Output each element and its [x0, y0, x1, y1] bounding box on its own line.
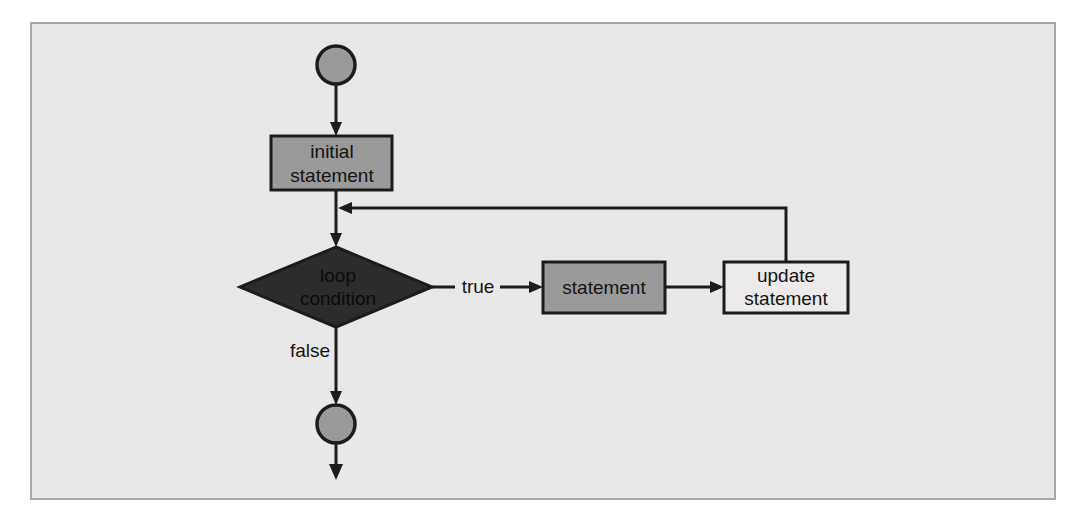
edge-label-true: true	[462, 276, 495, 297]
arrowhead-icon	[529, 281, 543, 293]
edge-initial-to-condition	[330, 190, 342, 247]
loop-condition-diamond[interactable]	[240, 247, 432, 327]
loop-condition-label-line1: loop	[320, 265, 356, 286]
node-loop-condition[interactable]: loop condition	[240, 247, 432, 327]
loop-condition-label-line2: condition	[300, 288, 376, 309]
node-update-statement[interactable]: update statement	[724, 262, 848, 313]
edge-condition-to-statement: true	[432, 276, 543, 297]
arrowhead-icon	[329, 464, 343, 480]
arrowhead-icon	[330, 233, 342, 247]
initial-statement-label-line1: initial	[310, 141, 353, 162]
end-terminator-icon[interactable]	[317, 405, 355, 443]
arrowhead-icon	[330, 391, 342, 405]
arrowhead-icon	[338, 202, 352, 214]
figure-root: true false initial	[0, 0, 1084, 525]
edge-update-feedback	[338, 202, 786, 262]
node-start[interactable]	[317, 46, 355, 84]
arrowhead-icon	[710, 281, 724, 293]
update-statement-label-line2: statement	[744, 288, 828, 309]
arrowhead-icon	[330, 122, 342, 136]
update-statement-label-line1: update	[757, 265, 815, 286]
edge-start-to-initial	[330, 84, 342, 136]
node-end[interactable]	[317, 405, 355, 443]
node-statement[interactable]: statement	[543, 262, 665, 313]
edge-end-exit	[329, 443, 343, 480]
edge-label-false: false	[290, 340, 330, 361]
flowchart-canvas: true false initial	[0, 0, 1084, 525]
statement-label-line1: statement	[562, 277, 646, 298]
edge-statement-to-update	[665, 281, 724, 293]
edge-condition-to-end: false	[290, 327, 342, 405]
node-initial-statement[interactable]: initial statement	[271, 136, 392, 190]
start-terminator-icon[interactable]	[317, 46, 355, 84]
initial-statement-label-line2: statement	[290, 165, 374, 186]
